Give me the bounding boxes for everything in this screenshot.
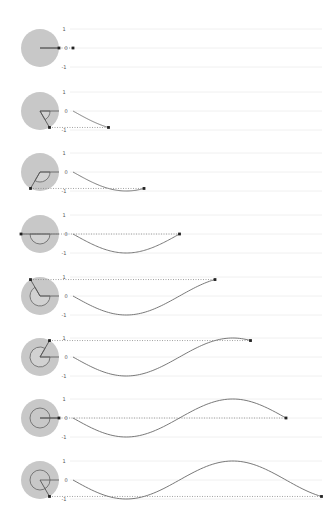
curve-end-marker [249,339,252,342]
curve-end-marker [178,233,181,236]
curve-end-marker [107,126,110,129]
circle-point-marker [58,417,61,420]
circle-point-marker [29,187,32,190]
circle-point-marker [58,47,61,50]
tick-label-minus-1: -1 [62,64,67,70]
curve-end-marker [143,187,146,190]
panel: 10-1 [20,212,322,256]
tick-label-1: 1 [62,89,65,95]
circle-point-marker [48,126,51,129]
panel: 10-1 [21,89,322,133]
tick-label-0: 0 [64,293,67,299]
tick-label-1: 1 [62,212,65,218]
tick-label-minus-1: -1 [62,312,67,318]
circle-point-marker [48,495,51,498]
sine-curve [73,280,215,315]
tick-label-1: 1 [62,274,65,280]
panel: 10-1 [21,150,322,194]
tick-label-minus-1: -1 [62,127,67,133]
curve-end-marker [214,278,217,281]
unit-circle-sine-diagram: 10-110-110-110-110-110-110-110-1 [0,0,336,522]
tick-label-0: 0 [64,108,67,114]
tick-label-0: 0 [64,169,67,175]
tick-label-1: 1 [62,458,65,464]
tick-label-0: 0 [64,354,67,360]
tick-label-1: 1 [62,396,65,402]
curve-end-marker [72,47,75,50]
curve-end-marker [320,495,323,498]
tick-label-minus-1: -1 [62,250,67,256]
panel: 10-1 [21,26,322,70]
tick-label-0: 0 [64,477,67,483]
circle-point-marker [29,278,32,281]
panel: 10-1 [21,335,322,379]
tick-label-minus-1: -1 [62,434,67,440]
tick-label-minus-1: -1 [62,188,67,194]
circle-point-marker [48,339,51,342]
panel: 10-1 [21,458,323,502]
tick-label-minus-1: -1 [62,373,67,379]
panel: 10-1 [21,396,322,440]
curve-end-marker [285,417,288,420]
circle-point-marker [20,233,23,236]
tick-label-1: 1 [62,26,65,32]
tick-label-minus-1: -1 [62,496,67,502]
sine-curve [73,234,180,253]
diagram-canvas: 10-110-110-110-110-110-110-110-1 [0,0,336,522]
tick-label-1: 1 [62,150,65,156]
sine-curve [73,111,109,127]
panel: 10-1 [21,274,322,318]
tick-label-1: 1 [62,335,65,341]
